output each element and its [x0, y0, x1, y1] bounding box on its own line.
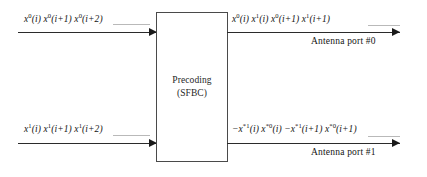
antenna-port-1-caption: Antenna port #1: [311, 147, 376, 157]
precoding-block-subtitle: (SFBC): [177, 87, 207, 100]
output-1-line: [227, 143, 400, 144]
output-0-arrowhead-icon: [392, 28, 400, 36]
output-0-dash-segment: [368, 25, 400, 26]
output-0-line: [227, 32, 400, 33]
input-0-line: [18, 32, 159, 33]
input-stream-1-label: x1(i) x1(i+1) x1(i+2): [24, 124, 103, 134]
output-port-0-label: x0(i) x1(i) x0(i+1) x1(i+1): [232, 14, 330, 24]
output-1-dash-segment: [368, 136, 400, 137]
input-1-dash-segment: [113, 135, 150, 136]
diagram-canvas: x0(i) x0(i+1) x0(i+2) x1(i) x1(i+1) x1(i…: [0, 0, 427, 177]
output-port-1-label: −x*1(i) x*0(i) −x*1(i+1) x*0(i+1): [232, 124, 357, 134]
antenna-port-0-caption: Antenna port #0: [311, 36, 376, 46]
output-1-arrowhead-icon: [392, 139, 400, 147]
input-0-dash-segment: [113, 24, 150, 25]
precoding-block: Precoding (SFBC): [156, 12, 228, 162]
input-stream-0-label: x0(i) x0(i+1) x0(i+2): [24, 14, 103, 24]
input-1-line: [18, 143, 159, 144]
precoding-block-title: Precoding: [172, 74, 211, 87]
